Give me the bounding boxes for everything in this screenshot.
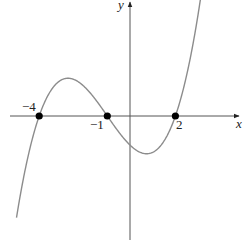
y-axis-label: y	[116, 0, 124, 12]
cubic-curve	[17, 0, 201, 218]
root-point	[104, 112, 111, 119]
cubic-graph: y x −4 −1 2	[0, 0, 243, 245]
root-label-neg1: −1	[90, 117, 104, 132]
x-axis-label: x	[235, 116, 242, 131]
root-label-2: 2	[176, 117, 183, 132]
root-label-neg4: −4	[22, 99, 36, 114]
root-point	[36, 112, 43, 119]
